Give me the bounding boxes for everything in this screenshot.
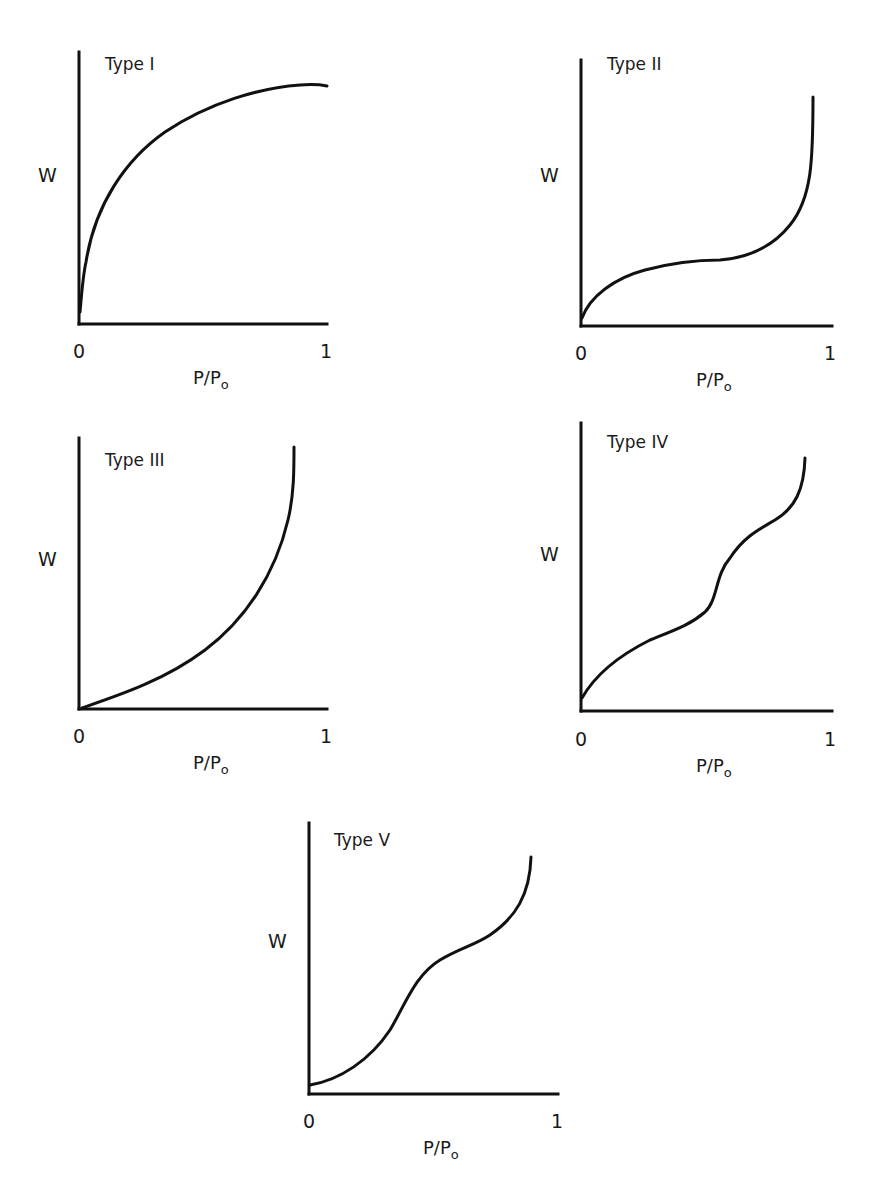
isotherm-curve	[82, 447, 294, 708]
chart-type-2: Type II W 0 1 P/Po	[540, 54, 836, 394]
chart-type-4: Type IV W 0 1 P/Po	[540, 423, 836, 780]
x-axis-label: P/Po	[696, 369, 732, 394]
y-axis-label: W	[38, 164, 57, 186]
x-axis-label: P/Po	[423, 1137, 459, 1162]
x-axis-label: P/Po	[193, 367, 229, 392]
x-tick-1: 1	[824, 342, 836, 364]
x-tick-0: 0	[575, 728, 587, 750]
isotherm-curve	[80, 85, 327, 312]
chart-title: Type V	[333, 830, 390, 850]
x-tick-1: 1	[824, 728, 836, 750]
x-axis-label: P/Po	[193, 752, 229, 777]
chart-title: Type III	[104, 450, 165, 470]
x-tick-0: 0	[73, 725, 85, 747]
chart-title: Type IV	[606, 432, 668, 452]
isotherm-figure: Type I W 0 1 P/Po Type II W 0 1 P/Po Typ…	[0, 0, 880, 1189]
chart-type-5: Type V W 0 1 P/Po	[268, 823, 563, 1162]
isotherm-curve	[582, 97, 813, 318]
y-axis-label: W	[540, 543, 559, 565]
x-tick-0: 0	[73, 340, 85, 362]
x-tick-0: 0	[575, 342, 587, 364]
chart-title: Type I	[104, 54, 154, 74]
chart-title: Type II	[606, 54, 661, 74]
chart-type-1: Type I W 0 1 P/Po	[38, 52, 332, 392]
x-tick-0: 0	[303, 1110, 315, 1132]
x-tick-1: 1	[551, 1110, 563, 1132]
y-axis-label: W	[268, 930, 287, 952]
y-axis-label: W	[38, 548, 57, 570]
chart-type-3: Type III W 0 1 P/Po	[38, 438, 332, 777]
isotherm-curve	[582, 458, 805, 698]
isotherm-curve	[310, 857, 531, 1085]
x-tick-1: 1	[320, 340, 332, 362]
x-axis-label: P/Po	[696, 755, 732, 780]
y-axis-label: W	[540, 164, 559, 186]
x-tick-1: 1	[320, 725, 332, 747]
